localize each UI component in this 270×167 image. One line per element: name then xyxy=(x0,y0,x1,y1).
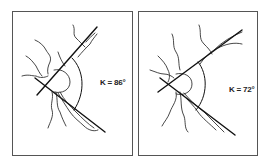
right-angle-lines xyxy=(158,30,242,135)
left-vessel-tracing xyxy=(22,25,98,131)
angle-label-right: K = 72° xyxy=(229,85,255,94)
fundus-vessel-diagram xyxy=(0,0,270,167)
angle-label-left: K = 86° xyxy=(100,78,126,87)
